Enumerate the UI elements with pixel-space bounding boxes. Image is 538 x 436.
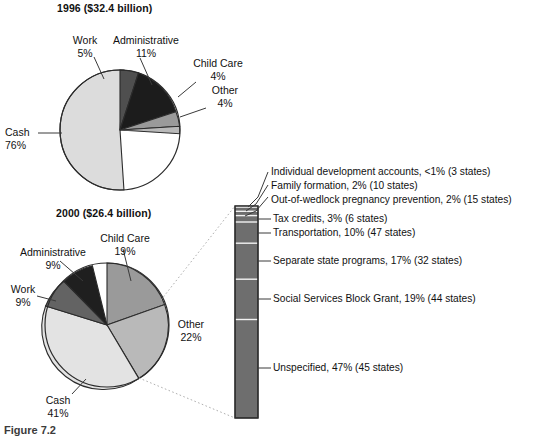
pie-2000-label-cash-value: 41% [36, 407, 80, 420]
pie-2000-label-child-care: Child Care 19% [94, 232, 156, 257]
pie-1996-label-cash: Cash 76% [5, 126, 41, 151]
pie-2000-label-cash: Cash 41% [36, 394, 80, 419]
bar-label-transportation: Transportation, 10% (47 states) [273, 227, 415, 239]
bar-label-individual-development-accounts: Individual development accounts, <1% (3 … [271, 166, 490, 178]
pie-1996-label-other-name: Other [203, 84, 247, 97]
pie-1996-label-work: Work 5% [62, 34, 108, 59]
figure-caption: Figure 7.2 [4, 424, 56, 436]
pie-2000-label-administrative-name: Administrative [15, 246, 91, 259]
pie-1996-label-child-care: Child Care 4% [187, 57, 249, 82]
pie-1996-label-cash-name: Cash [5, 126, 41, 139]
pie-2000-label-work: Work 9% [2, 283, 44, 308]
pie-1996-label-administrative: Administrative 11% [108, 34, 184, 59]
leader-child-care-1996 [178, 82, 196, 97]
pie-2000-graphic [42, 263, 169, 390]
bar-label-unspecified: Unspecified, 47% (45 states) [273, 362, 403, 374]
pie-1996-label-work-value: 5% [62, 47, 108, 60]
pie-2000-title: 2000 ($26.4 billion) [56, 207, 151, 219]
pie-1996-label-other: Other 4% [203, 84, 247, 109]
pie-2000-label-other: Other 22% [168, 318, 214, 343]
pie-2000-label-administrative: Administrative 9% [15, 246, 91, 271]
pie-1996-label-child-care-name: Child Care [187, 57, 249, 70]
pie-1996-label-other-value: 4% [203, 97, 247, 110]
other-breakdown-bar-graphic [235, 206, 258, 418]
figure-canvas: 1996 ($32.4 billion) Work 5% Administrat… [0, 0, 538, 436]
connector-bottom [139, 378, 235, 418]
pie-1996-label-administrative-value: 11% [108, 47, 184, 60]
bar-label-tax-credits: Tax credits, 3% (6 states) [273, 213, 387, 225]
pie-1996-label-cash-value: 76% [5, 139, 41, 152]
connector-top [161, 206, 235, 300]
pie-1996-graphic [60, 70, 180, 190]
leader-other-1996 [180, 108, 206, 117]
pie-1996-label-child-care-value: 4% [187, 70, 249, 83]
pie-1996-label-work-name: Work [62, 34, 108, 47]
pie-2000-label-other-name: Other [168, 318, 214, 331]
pie-1996-slice-cash [60, 70, 124, 190]
bar-label-separate-state-programs: Separate state programs, 17% (32 states) [273, 255, 462, 267]
bar-label-social-services-block-grant: Social Services Block Grant, 19% (44 sta… [273, 293, 476, 305]
pie-2000-label-child-care-name: Child Care [94, 232, 156, 245]
pie-1996-label-administrative-name: Administrative [108, 34, 184, 47]
pie-1996-title: 1996 ($32.4 billion) [57, 2, 152, 14]
pie-2000-label-work-value: 9% [2, 296, 44, 309]
pie-2000-label-other-value: 22% [168, 331, 214, 344]
bar-label-family-formation: Family formation, 2% (10 states) [271, 180, 418, 192]
pie-2000-label-administrative-value: 9% [15, 259, 91, 272]
bar-label-out-of-wedlock-pregnancy-prevention: Out-of-wedlock pregnancy prevention, 2% … [271, 194, 512, 206]
pie-2000-label-work-name: Work [2, 283, 44, 296]
pie-2000-label-child-care-value: 19% [94, 245, 156, 258]
pie-2000-label-cash-name: Cash [36, 394, 80, 407]
